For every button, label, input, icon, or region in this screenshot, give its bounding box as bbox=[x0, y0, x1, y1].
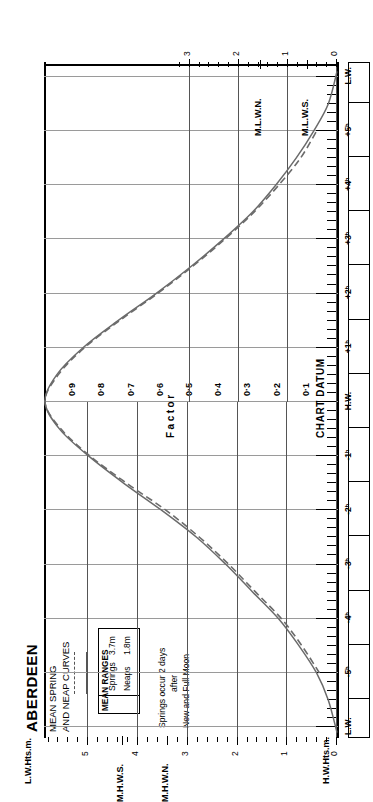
time-entry-boxes[interactable] bbox=[348, 62, 370, 738]
left-height-label: 3 bbox=[181, 751, 190, 756]
time-entry-box-divider bbox=[349, 427, 369, 428]
chart-datum-label: CHART DATUM bbox=[316, 358, 326, 438]
left-height-label: 4 bbox=[131, 751, 140, 756]
time-entry-box-divider bbox=[349, 265, 369, 266]
time-entry-box-divider bbox=[349, 156, 369, 157]
left-height-label: 2 bbox=[231, 751, 240, 756]
curve-neaps bbox=[45, 131, 320, 673]
left-height-label: 5 bbox=[81, 751, 90, 756]
plot-area: L.W.+5ʰ+4ʰ+3ʰ+2ʰ+1ʰH.W.-1ʰ-2ʰ-3ʰ-4ʰ-5ʰL.… bbox=[44, 62, 338, 738]
right-height-label: 2 bbox=[232, 51, 241, 56]
time-entry-box-divider bbox=[349, 698, 369, 699]
time-entry-box-divider bbox=[349, 210, 369, 211]
time-entry-box-divider bbox=[349, 644, 369, 645]
left-axis-title: H.W.Hts.m. bbox=[322, 737, 331, 784]
right-axis-title: L.W.Hts.m. bbox=[24, 738, 33, 784]
left-height-label: 1 bbox=[280, 751, 289, 756]
right-height-label: 1 bbox=[281, 51, 290, 56]
left-height-label: 0 bbox=[330, 751, 339, 756]
time-entry-box-divider bbox=[349, 481, 369, 482]
time-entry-box-divider bbox=[349, 373, 369, 374]
time-entry-box-divider bbox=[349, 319, 369, 320]
right-height-label: 3 bbox=[183, 51, 192, 56]
page-title: ABERDEEN bbox=[24, 644, 39, 732]
right-height-label: 0 bbox=[330, 51, 339, 56]
time-entry-box-divider bbox=[349, 102, 369, 103]
left-marker-label: M.H.W.S. bbox=[116, 764, 125, 802]
tide-curves bbox=[44, 62, 338, 738]
factor-axis-title: Factor bbox=[166, 392, 176, 438]
left-marker-label: M.H.W.N. bbox=[161, 764, 170, 802]
time-entry-box-divider bbox=[349, 590, 369, 591]
time-entry-box-divider bbox=[349, 536, 369, 537]
